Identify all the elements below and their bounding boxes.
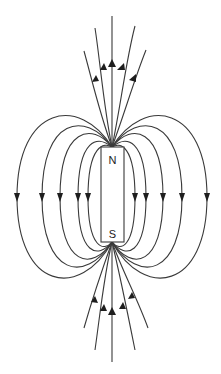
arrow-down-icon bbox=[160, 193, 166, 202]
arrow-down-icon bbox=[57, 193, 63, 202]
arrow-up-icon bbox=[100, 63, 107, 70]
arrow-down-icon bbox=[75, 193, 81, 202]
arrow-down-icon bbox=[204, 193, 210, 202]
south-pole-label: S bbox=[109, 228, 116, 240]
bottom-up-arrows bbox=[91, 292, 135, 315]
arrow-down-icon bbox=[14, 193, 20, 202]
arrow-down-icon bbox=[143, 193, 149, 202]
arrow-down-icon bbox=[85, 193, 91, 202]
top-up-arrows bbox=[92, 59, 136, 82]
magnetic-field-diagram: N S bbox=[0, 0, 221, 374]
north-pole-label: N bbox=[109, 154, 117, 166]
bar-magnet: N S bbox=[101, 147, 124, 242]
arrow-up-icon bbox=[108, 59, 116, 67]
arrow-down-icon bbox=[132, 193, 138, 202]
arrow-down-icon bbox=[179, 193, 185, 202]
arrow-up-icon bbox=[117, 63, 125, 70]
arrow-down-icon bbox=[39, 193, 45, 202]
arrow-up-icon bbox=[129, 74, 136, 82]
arrow-up-icon bbox=[92, 75, 99, 82]
right-field-loops bbox=[112, 116, 207, 278]
left-field-loops bbox=[17, 116, 112, 278]
arrow-up-icon bbox=[108, 307, 116, 315]
